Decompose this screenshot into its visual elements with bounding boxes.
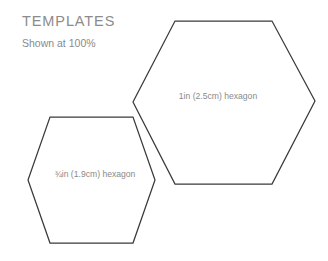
small-hexagon-outline (28, 117, 155, 243)
template-sheet: TEMPLATES Shown at 100% 1in (2.5cm) hexa… (0, 0, 328, 261)
hexagon-canvas: 1in (2.5cm) hexagon ¾in (1.9cm) hexagon (0, 0, 328, 261)
large-hexagon-outline (133, 21, 315, 184)
large-hexagon-label: 1in (2.5cm) hexagon (179, 91, 258, 101)
small-hexagon-label: ¾in (1.9cm) hexagon (55, 169, 136, 179)
